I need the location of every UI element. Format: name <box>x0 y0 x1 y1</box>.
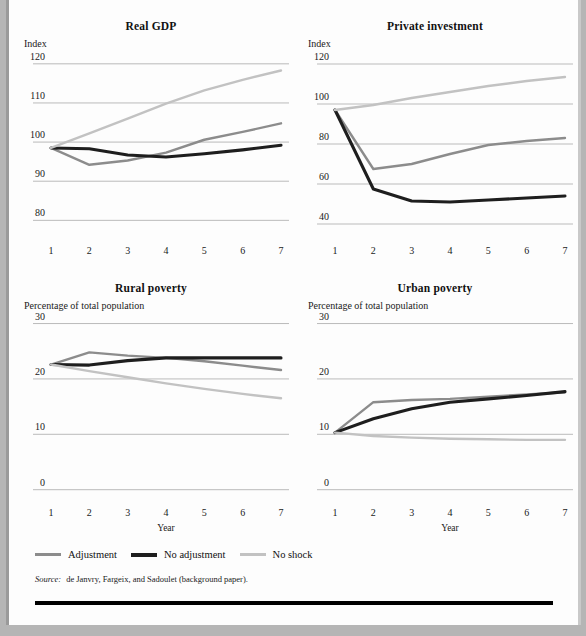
y-axis-tick-label: 0 <box>324 477 329 488</box>
x-axis-tick-label: 7 <box>563 507 568 518</box>
figure-page: Real GDPIndex80901001101201234567Private… <box>9 0 578 625</box>
series-line <box>51 145 281 157</box>
x-axis-tick-label: 5 <box>202 507 207 518</box>
series-line <box>335 433 565 440</box>
y-axis-tick-label: 60 <box>319 171 329 182</box>
legend-item: Adjustment <box>35 549 117 560</box>
series-line <box>335 110 565 169</box>
legend-label: No shock <box>273 549 313 560</box>
x-axis-tick-label: 7 <box>279 507 284 518</box>
y-axis-tick-label: 80 <box>35 207 45 218</box>
legend-swatch <box>35 553 61 556</box>
y-axis-tick-label: 120 <box>30 51 45 62</box>
x-axis-tick-label: 6 <box>240 245 245 256</box>
x-axis-tick-label: 3 <box>125 245 130 256</box>
plot-area: 01020301234567Year <box>293 274 577 536</box>
x-axis-tick-label: 7 <box>279 245 284 256</box>
series-line <box>51 352 281 370</box>
legend-swatch <box>240 553 266 556</box>
x-axis-tick-label: 3 <box>409 245 414 256</box>
y-axis-tick-label: 0 <box>40 477 45 488</box>
series-line <box>51 358 281 365</box>
x-axis-tick-label: 6 <box>524 245 529 256</box>
x-axis-tick-label: 2 <box>371 245 376 256</box>
y-axis-tick-label: 110 <box>30 90 45 101</box>
legend-item: No shock <box>240 549 313 560</box>
plot-area: 4060801001201234567 <box>293 12 577 274</box>
x-axis-tick-label: 7 <box>563 245 568 256</box>
y-axis-tick-label: 120 <box>314 51 329 62</box>
y-axis-tick-label: 80 <box>319 131 329 142</box>
x-axis-tick-label: 6 <box>240 507 245 518</box>
series-line <box>51 365 281 399</box>
x-axis-tick-label: 1 <box>49 245 54 256</box>
x-axis-tick-label: 1 <box>333 507 338 518</box>
cut-off-text-top <box>23 1 563 10</box>
x-axis-tick-label: 4 <box>448 245 453 256</box>
chart-panel: Rural povertyPercentage of total populat… <box>9 274 293 536</box>
series-line <box>335 392 565 432</box>
x-axis-tick-label: 6 <box>524 507 529 518</box>
y-axis-tick-label: 100 <box>30 129 45 140</box>
legend-label: No adjustment <box>164 549 226 560</box>
source-label: Source: <box>35 574 61 584</box>
y-axis-tick-label: 10 <box>35 421 45 432</box>
x-axis-tick-label: 2 <box>87 245 92 256</box>
x-axis-label: Year <box>157 523 175 533</box>
series-line <box>335 77 565 110</box>
source-note: Source:de Janvry, Fargeix, and Sadoulet … <box>35 574 248 584</box>
x-axis-tick-label: 3 <box>125 507 130 518</box>
y-axis-tick-label: 100 <box>314 91 329 102</box>
x-axis-label: Year <box>441 523 459 533</box>
x-axis-tick-label: 5 <box>486 245 491 256</box>
x-axis-tick-label: 4 <box>448 507 453 518</box>
x-axis-tick-label: 2 <box>87 507 92 518</box>
x-axis-tick-label: 5 <box>486 507 491 518</box>
series-line <box>51 70 281 147</box>
bottom-rule <box>35 601 553 605</box>
chart-panel: Private investmentIndex40608010012012345… <box>293 12 577 274</box>
plot-area: 01020301234567Year <box>9 274 293 536</box>
legend-label: Adjustment <box>68 549 117 560</box>
y-axis-tick-label: 30 <box>319 311 329 322</box>
y-axis-tick-label: 40 <box>319 211 329 222</box>
y-axis-tick-label: 90 <box>35 168 45 179</box>
plot-area: 80901001101201234567 <box>9 12 293 274</box>
x-axis-tick-label: 4 <box>164 507 169 518</box>
x-axis-tick-label: 1 <box>49 507 54 518</box>
series-line <box>51 123 281 164</box>
x-axis-tick-label: 1 <box>333 245 338 256</box>
chart-panel: Real GDPIndex80901001101201234567 <box>9 12 293 274</box>
legend-item: No adjustment <box>131 549 226 560</box>
chart-panel: Urban povertyPercentage of total populat… <box>293 274 577 536</box>
legend-swatch <box>131 553 157 557</box>
y-axis-tick-label: 20 <box>35 366 45 377</box>
y-axis-tick-label: 30 <box>35 311 45 322</box>
y-axis-tick-label: 20 <box>319 366 329 377</box>
x-axis-tick-label: 4 <box>164 245 169 256</box>
x-axis-tick-label: 3 <box>409 507 414 518</box>
y-axis-tick-label: 10 <box>319 421 329 432</box>
chart-legend: AdjustmentNo adjustmentNo shock <box>35 549 327 560</box>
chart-panel-grid: Real GDPIndex80901001101201234567Private… <box>9 12 578 536</box>
x-axis-tick-label: 5 <box>202 245 207 256</box>
x-axis-tick-label: 2 <box>371 507 376 518</box>
series-line <box>335 110 565 202</box>
source-text: de Janvry, Fargeix, and Sadoulet (backgr… <box>66 574 248 584</box>
